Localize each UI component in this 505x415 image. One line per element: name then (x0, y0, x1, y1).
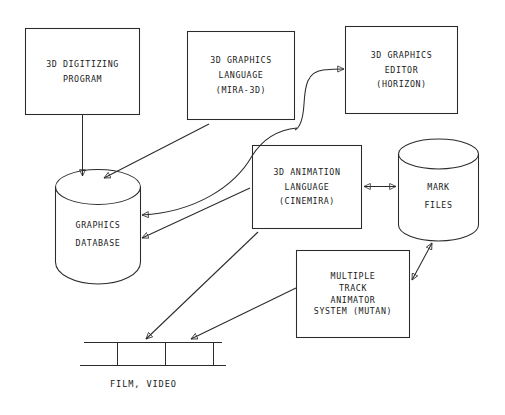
node-film-video-shape (80, 343, 226, 366)
edge-mutan-to-film (191, 288, 296, 339)
edge-mutan-to-mark-files (412, 243, 432, 280)
node-graphics-language-shape (188, 32, 295, 120)
node-film-video-caption: FILM, VIDEO (110, 379, 177, 389)
node-graphics-database-shape (56, 170, 141, 285)
node-mark-files-shape (399, 139, 479, 241)
edge-database-to-graphics-language (104, 124, 209, 178)
node-digitizing-program-shape (26, 29, 140, 115)
edge-animation-language-to-film (146, 232, 258, 339)
node-graphics-editor-shape (346, 27, 458, 114)
node-mutan-shape (297, 251, 410, 338)
edge-graphics-language-to-editor (295, 69, 344, 130)
diagram-vector-layer (0, 0, 505, 415)
diagram-canvas: 3D DIGITIZING PROGRAM 3D GRAPHICS LANGUA… (0, 0, 505, 415)
node-animation-language-shape (253, 146, 362, 229)
